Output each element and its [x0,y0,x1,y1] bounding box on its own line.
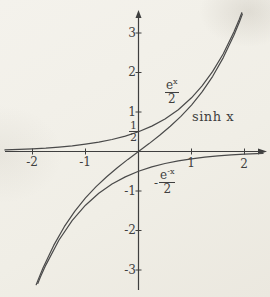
negex-fraction: e-x 2 [159,169,175,196]
y-tick-label-2: 2 [110,65,136,79]
curve-label-sinh: sinh x [192,109,234,124]
one-half-denominator: 2 [129,132,138,143]
curve-2 [38,153,263,283]
hyperbolic-functions-plot: 3 2 1 -1 -2 -3 -2 -1 1 2 1 2 ex 2 sinh x… [0,0,270,297]
y-tick-label-neg1: -1 [110,184,136,198]
x-tick-label-neg2: -2 [22,155,42,169]
y-intercept-label-one-half: 1 2 [129,120,138,143]
x-tick-label-neg1: -1 [75,155,95,169]
curve-0 [36,14,242,285]
plot-canvas [0,0,270,297]
negex-denominator: 2 [159,183,175,196]
ex-denominator: 2 [165,93,179,106]
y-tick-label-neg2: -2 [110,223,136,237]
negex-minus-sign: - [154,176,158,190]
x-tick-label-1: 1 [181,156,201,170]
curve-label-neg-e-negx-over-2: - e-x 2 [154,169,175,196]
y-tick-label-neg3: -3 [110,263,136,277]
negex-numerator: e-x [159,169,175,183]
curve-label-ex-over-2: ex 2 [165,79,179,106]
x-tick-label-2: 2 [234,157,254,171]
y-tick-label-1: 1 [110,105,136,119]
ex-numerator: ex [165,79,179,93]
negex-exponent: -x [167,167,174,176]
ex-exponent: x [173,77,178,86]
y-axis-arrow-icon [136,10,142,18]
y-tick-label-3: 3 [110,26,136,40]
